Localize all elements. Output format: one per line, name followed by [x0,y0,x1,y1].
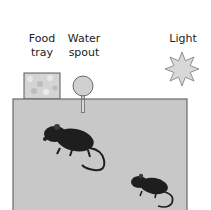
cage-diagram [0,0,211,210]
food-tray-icon [24,73,60,99]
light-sun-icon [165,52,199,86]
